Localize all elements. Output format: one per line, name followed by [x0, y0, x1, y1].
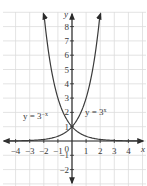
y-tick-label: 6: [65, 50, 70, 60]
y-tick-label: 8: [65, 22, 70, 32]
y-tick-label: 3: [65, 93, 70, 103]
exponential-graph: −4−3−2−11234−2−1123456780xy y = 3−x y = …: [0, 0, 147, 186]
x-tick-label: 2: [98, 146, 103, 156]
tick-labels: −4−3−2−11234−2−1123456780xy: [11, 9, 145, 175]
x-tick-label: 4: [126, 146, 131, 156]
origin-label: 0: [65, 144, 70, 154]
y-tick-label: 7: [65, 36, 70, 46]
grid-lines: [3, 12, 146, 186]
x-tick-label: 3: [112, 146, 117, 156]
y-tick-label: 4: [65, 79, 70, 89]
label-y-3-neg-x: y = 3−x: [23, 111, 48, 122]
x-tick-label: −3: [25, 146, 35, 156]
y-tick-label: 1: [65, 122, 70, 132]
y-axis-label: y: [63, 9, 68, 19]
x-tick-label: −4: [11, 146, 21, 156]
x-tick-label: 1: [84, 146, 89, 156]
y-tick-label: −2: [59, 165, 69, 175]
x-axis-label: x: [140, 144, 145, 154]
x-tick-label: −2: [39, 146, 49, 156]
label-y-3-x: y = 3x: [85, 107, 107, 118]
y-tick-label: 2: [65, 107, 70, 117]
y-tick-label: 5: [65, 65, 70, 75]
